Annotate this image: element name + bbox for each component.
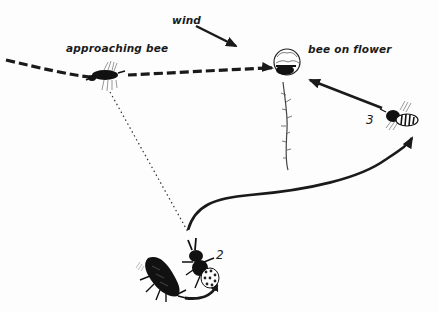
bee-3-icon <box>380 101 418 130</box>
wind-arrow <box>196 26 236 46</box>
bee-behavior-diagram: wind approaching bee bee on flower 3 2 <box>0 0 438 312</box>
step-3-label: 3 <box>366 113 374 127</box>
return-arrow <box>310 80 382 108</box>
sight-line-dotted <box>110 92 188 232</box>
bee-2-icon <box>182 238 219 288</box>
attack-curve <box>188 138 412 230</box>
beetle-icon <box>136 257 186 302</box>
approaching-bee-icon <box>86 61 125 91</box>
step-2-label: 2 <box>216 248 224 262</box>
flower-with-bee-icon <box>274 49 300 170</box>
approaching-bee-label: approaching bee <box>66 42 168 54</box>
wind-label: wind <box>172 14 201 26</box>
bee-on-flower-label: bee on flower <box>308 43 392 55</box>
flight-path-dashed <box>6 60 268 77</box>
